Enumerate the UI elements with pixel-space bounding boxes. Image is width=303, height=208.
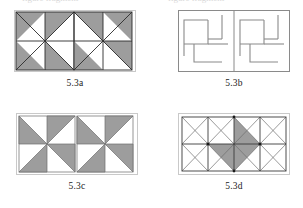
- figure-5-3-c-graphic: [16, 113, 138, 175]
- figure-5-3-a-graphic: [14, 10, 136, 72]
- zigzag-pair-svg: [178, 10, 290, 72]
- clipped-header-right: figure fragment: [168, 0, 224, 3]
- caption-5-3-a: 5.3a: [14, 78, 136, 88]
- tile-a-left: [16, 12, 74, 70]
- pinwheel-pair-svg: [14, 10, 136, 72]
- caption-5-3-c: 5.3c: [16, 181, 138, 191]
- clipped-header-text: figure fragment figure fragment: [0, 0, 303, 10]
- figure-5-3-a: 5.3a: [14, 10, 136, 72]
- clipped-header-left: figure fragment: [22, 0, 78, 3]
- tile-a-right: [74, 12, 132, 70]
- pinwheel-open-pair-svg: [16, 113, 138, 175]
- caption-5-3-b: 5.3b: [178, 78, 290, 88]
- figure-5-3-b: 5.3b: [178, 10, 290, 72]
- tile-c-right: [77, 116, 133, 172]
- figure-5-3-d: 5.3d: [178, 113, 290, 175]
- figure-5-3-c: 5.3c: [16, 113, 138, 175]
- tile-c-left: [19, 116, 75, 172]
- caption-5-3-d: 5.3d: [178, 181, 290, 191]
- figure-5-3-d-graphic: [178, 113, 290, 175]
- figure-page: figure fragment figure fragment: [0, 0, 303, 208]
- figure-5-3-b-graphic: [178, 10, 290, 72]
- triangulated-grid-svg: [178, 113, 290, 175]
